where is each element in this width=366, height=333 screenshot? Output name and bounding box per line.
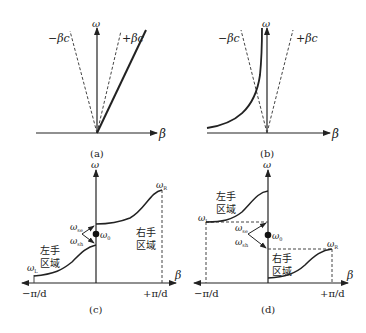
caption-c: (c) — [89, 304, 103, 315]
light-line-negative — [241, 30, 267, 133]
omega-L-label: ωL — [27, 263, 38, 274]
tick-neg-pi-d: −π/d — [22, 288, 47, 299]
caption-d: (d) — [261, 304, 275, 315]
left-hand-region-label-2: 区域 — [40, 257, 60, 269]
light-line-neg-label: −βc — [48, 32, 70, 45]
omega-axis-label: ω — [91, 159, 99, 170]
right-hand-region-label-2: 区域 — [272, 265, 292, 277]
tick-pos-pi-d: +π/d — [143, 288, 168, 299]
omega-se-label: ωse — [70, 222, 83, 233]
panel-c: ω β ωse ωsh ω0 ωL ωR 左手 区域 右手 区域 −π/d +π… — [22, 159, 181, 315]
left-hand-region-label-1: 左手 — [216, 190, 236, 202]
light-line-pos-label: +βc — [296, 32, 318, 45]
omega-0-label: ω0 — [100, 230, 111, 241]
omega-sh-label: ωsh — [235, 237, 249, 248]
omega0-point — [93, 231, 100, 238]
omega-sh-pointer — [82, 234, 94, 243]
omega0-point — [265, 232, 272, 239]
omega-axis-label: ω — [263, 159, 271, 170]
omega-se-pointer — [248, 223, 266, 234]
panel-a: ω β −βc +βc (a) — [36, 18, 166, 159]
dispersion-diagram-figure: ω β −βc +βc (a) ω β −βc +βc (b) ω β ωse … — [0, 0, 366, 333]
omega-0-label: ω0 — [272, 231, 283, 242]
omega-R-label: ωR — [156, 180, 167, 191]
omega-axis-label: ω — [92, 18, 100, 29]
omega-L-label: ωL — [198, 213, 209, 224]
dispersion-line-rh — [97, 30, 146, 133]
tick-pos-pi-d: +π/d — [320, 288, 345, 299]
light-line-neg-label: −βc — [218, 32, 240, 45]
caption-a: (a) — [90, 148, 104, 159]
omega-sh-pointer — [248, 234, 266, 248]
caption-b: (b) — [260, 148, 274, 159]
beta-axis-label: β — [331, 127, 339, 141]
panel-d: ω β ωse ωsh ω0 ωL ωR 左手 区域 右手 区域 −π/d +π… — [194, 159, 353, 315]
right-hand-region-label-2: 区域 — [136, 239, 156, 251]
beta-axis-label: β — [346, 269, 353, 282]
omega-se-pointer — [82, 226, 94, 234]
tick-neg-pi-d: −π/d — [194, 288, 219, 299]
omega-sh-label: ωsh — [70, 236, 84, 247]
light-line-pos-label: +βc — [122, 32, 144, 45]
right-hand-region-label-1: 右手 — [272, 252, 292, 264]
left-hand-region-label-1: 左手 — [40, 244, 60, 256]
light-line-negative — [70, 31, 97, 133]
omega-R-label: ωR — [327, 239, 338, 250]
right-hand-region-label-1: 右手 — [136, 226, 156, 238]
left-hand-region-label-2: 区域 — [216, 203, 236, 215]
omega-axis-label: ω — [262, 18, 270, 29]
rh-branch-curve — [96, 190, 162, 224]
beta-axis-label: β — [158, 127, 166, 141]
light-line-positive — [97, 31, 121, 133]
beta-axis-label: β — [174, 269, 181, 282]
light-line-positive — [267, 30, 293, 133]
panel-b: ω β −βc +βc (b) — [207, 18, 339, 159]
omega-se-label: ωse — [235, 223, 248, 234]
